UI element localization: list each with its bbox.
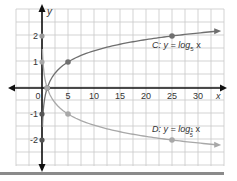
y-tick-label: 2 bbox=[33, 31, 38, 41]
point-C bbox=[65, 59, 71, 65]
x-axis-right-arrow-icon bbox=[220, 85, 227, 92]
x-axis-label: x bbox=[215, 91, 221, 101]
x-tick-label: 20 bbox=[141, 91, 151, 101]
point-D bbox=[65, 111, 71, 117]
x-tick-label: 30 bbox=[193, 91, 203, 101]
curve-C-label: C: y = log5 x bbox=[152, 40, 201, 52]
point-D bbox=[169, 137, 175, 143]
y-tick-label: -1 bbox=[30, 109, 38, 119]
curve-D-arrow-icon bbox=[214, 142, 221, 148]
y-axis-label: y bbox=[46, 6, 53, 17]
point-C bbox=[169, 33, 175, 39]
axes bbox=[8, 4, 227, 172]
x-tick-label: 10 bbox=[89, 91, 99, 101]
y-axis-point bbox=[39, 137, 44, 142]
x-tick-label: 5 bbox=[65, 91, 70, 101]
point-D bbox=[44, 85, 50, 91]
y-axis-point bbox=[39, 111, 44, 116]
y-axis-point bbox=[39, 59, 44, 64]
x-tick-label: 15 bbox=[115, 91, 125, 101]
y-tick-label: 1 bbox=[33, 57, 38, 67]
y-axis-point bbox=[39, 33, 44, 38]
y-tick-label: -2 bbox=[30, 135, 38, 145]
log-function-chart: 051015202530x21-1-2y C: y = log5 xD: y =… bbox=[0, 0, 237, 181]
y-axis-down-arrow-icon bbox=[39, 164, 46, 172]
x-tick-label: 25 bbox=[167, 91, 177, 101]
y-axis-up-arrow-icon bbox=[39, 4, 46, 12]
x-tick-label: 0 bbox=[35, 91, 40, 101]
curve-C-arrow-icon bbox=[214, 28, 221, 34]
x-axis-left-arrow-icon bbox=[8, 85, 15, 92]
